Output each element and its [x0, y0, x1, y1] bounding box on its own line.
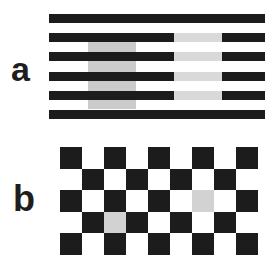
black-square [148, 147, 170, 169]
black-square [148, 190, 170, 212]
black-square [104, 190, 126, 212]
black-square [60, 147, 82, 169]
black-square [170, 212, 192, 233]
black-square [214, 212, 236, 233]
black-square [104, 233, 126, 255]
black-square [148, 233, 170, 255]
black-square [60, 190, 82, 212]
black-square [126, 169, 148, 190]
black-square [236, 147, 258, 169]
gray-square [192, 190, 214, 212]
black-square [104, 147, 126, 169]
checkerboard-panel [0, 0, 275, 265]
black-square [236, 190, 258, 212]
black-square [60, 233, 82, 255]
black-square [82, 212, 104, 233]
black-square [170, 169, 192, 190]
black-square [192, 147, 214, 169]
black-square [82, 169, 104, 190]
black-square [236, 233, 258, 255]
black-square [126, 212, 148, 233]
gray-square [104, 212, 126, 233]
black-square [214, 169, 236, 190]
black-square [192, 233, 214, 255]
